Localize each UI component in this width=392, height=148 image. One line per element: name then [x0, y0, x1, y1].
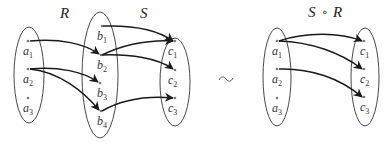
arrow-sr-a1-c1 [279, 34, 362, 41]
composition-set-a-elements: a1 a2 a3 [272, 40, 282, 117]
comp-label-a2: a2 [272, 72, 282, 88]
arrow-sr-a2-c3 [279, 69, 362, 97]
label-b1: b1 [97, 29, 107, 45]
label-c3: c3 [168, 101, 177, 117]
comp-label-c1: c1 [360, 44, 369, 60]
arrow-a2-b4 [30, 69, 99, 110]
comp-dot-c3 [363, 96, 366, 99]
label-a2: a2 [23, 72, 33, 88]
label-b4: b4 [97, 114, 107, 130]
dot-b1 [101, 25, 104, 28]
composition-arrows [279, 34, 362, 97]
dot-c2 [174, 69, 177, 72]
dot-a3 [27, 97, 30, 100]
composition-title: S ∘ R [308, 4, 342, 20]
dot-c1 [174, 40, 177, 43]
label-a3: a3 [23, 101, 33, 117]
label-b2: b2 [97, 58, 107, 74]
composition-title-s: S [308, 4, 316, 20]
compose-operator: ∘ [321, 6, 328, 19]
dot-a1 [27, 40, 30, 43]
comp-dot-a3 [276, 97, 279, 100]
comp-label-c2: c2 [360, 72, 369, 88]
relation-composition-diagram: R S S ∘ R a1 a2 a3 b1 b2 b3 b4 c1 c2 c3 [0, 0, 392, 148]
dot-b3 [99, 82, 102, 85]
comp-dot-c1 [363, 40, 366, 43]
set-b-elements: b1 b2 b3 b4 [97, 25, 107, 130]
arrow-sr-a1-c2 [279, 41, 362, 69]
label-a1: a1 [23, 44, 33, 60]
comp-label-a3: a3 [272, 101, 282, 117]
comp-dot-a1 [276, 40, 279, 43]
comp-label-a1: a1 [272, 44, 282, 60]
relation-s-arrows [102, 26, 173, 111]
dot-b2 [100, 54, 103, 57]
relation-label-r: R [59, 5, 69, 21]
label-b3: b3 [97, 86, 107, 102]
set-c-elements: c1 c2 c3 [168, 40, 177, 117]
relation-r-arrows [30, 40, 99, 110]
arrow-b2-c1 [102, 41, 173, 55]
comp-dot-a2 [276, 68, 279, 71]
relation-label-s: S [140, 5, 148, 21]
dot-b4 [100, 110, 103, 113]
comp-dot-c2 [363, 68, 366, 71]
set-a-elements: a1 a2 a3 [23, 40, 33, 117]
dot-a2 [27, 68, 30, 71]
comp-label-c3: c3 [360, 100, 369, 116]
composition-title-r: R [332, 4, 342, 20]
label-c1: c1 [168, 44, 177, 60]
label-c2: c2 [168, 73, 177, 89]
composition-set-c-elements: c1 c2 c3 [360, 40, 369, 116]
leads-to-squiggle [219, 77, 233, 81]
dot-c3 [174, 97, 177, 100]
